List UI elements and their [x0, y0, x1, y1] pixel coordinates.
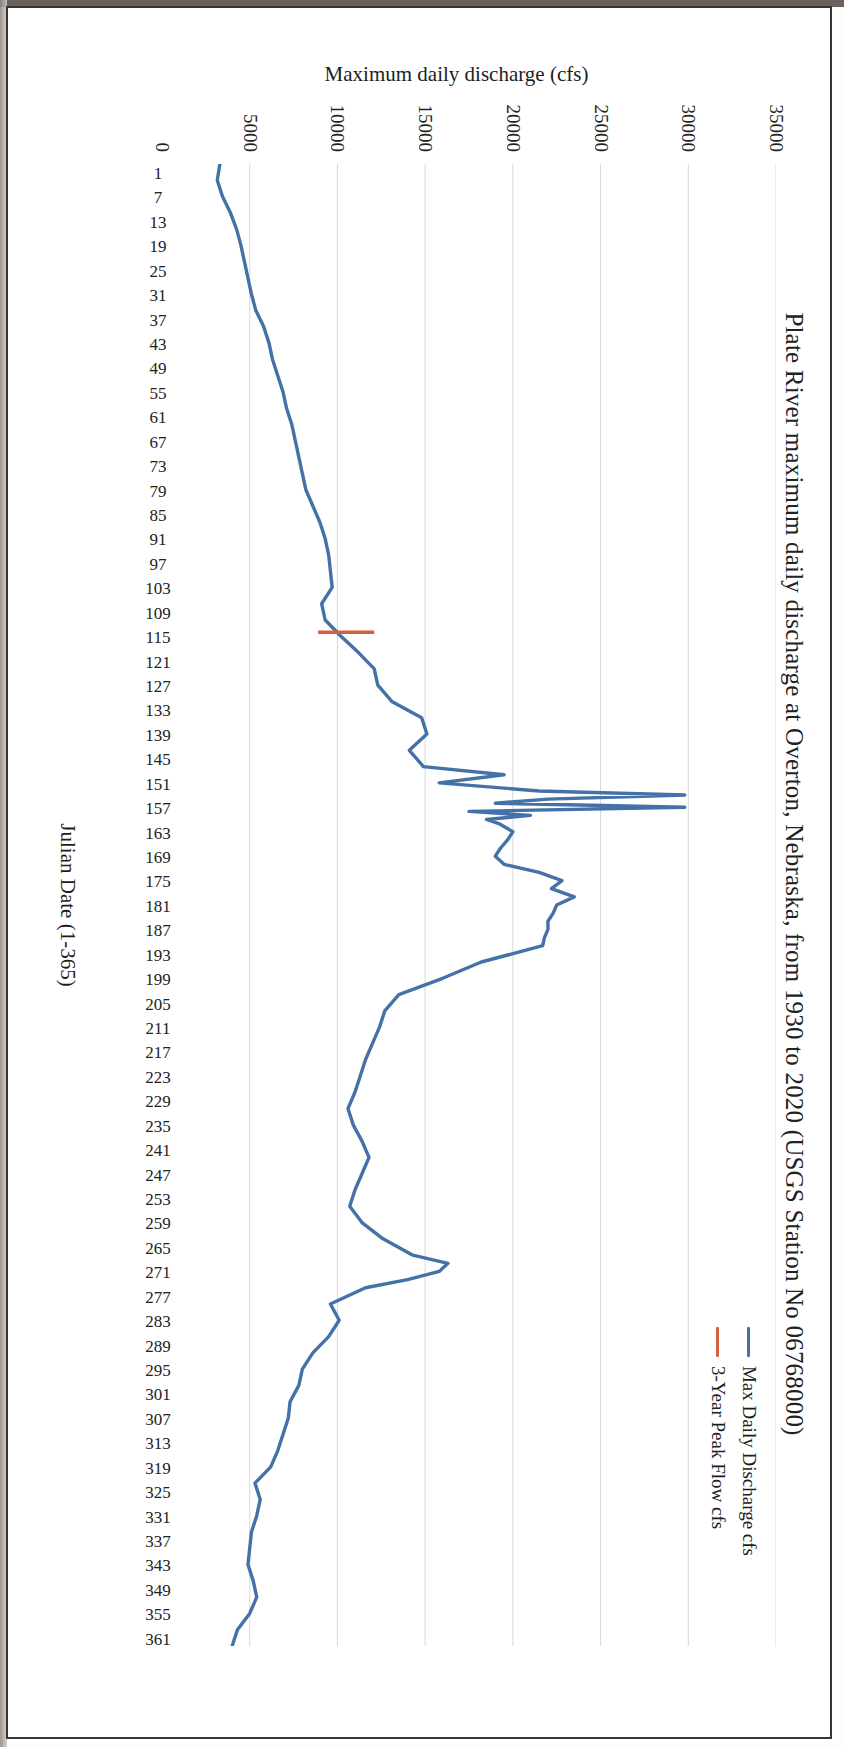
- x-axis-tick-label: 133: [145, 701, 171, 721]
- x-axis-tick-label: 37: [150, 310, 167, 330]
- x-axis-tick-label: 31: [150, 286, 167, 306]
- x-axis-tick-label: 61: [150, 408, 167, 428]
- x-axis-tick-label: 199: [145, 970, 171, 990]
- x-axis-tick-label: 55: [150, 383, 167, 403]
- x-axis-tick-label: 193: [145, 945, 171, 965]
- x-axis-tick-label: 295: [145, 1361, 171, 1381]
- chart-title: Plate River maximum daily discharge at O…: [780, 24, 808, 1724]
- x-axis-tick-label: 301: [145, 1385, 171, 1405]
- x-axis-tick-label: 217: [145, 1043, 171, 1063]
- y-axis-tick-label: 0: [151, 142, 173, 152]
- x-axis-tick-label: 253: [145, 1190, 171, 1210]
- x-axis-tick-label: 337: [145, 1532, 171, 1552]
- x-axis-tick-label: 25: [150, 261, 167, 281]
- x-axis-tick-label: 97: [150, 554, 167, 574]
- x-axis-tick-label: 289: [145, 1336, 171, 1356]
- x-axis-tick-label: 67: [150, 432, 167, 452]
- rotated-figure-wrapper: Plate River maximum daily discharge at O…: [22, 24, 822, 1724]
- x-axis-tick-label: 307: [145, 1409, 171, 1429]
- x-axis-tick-label: 49: [150, 359, 167, 379]
- x-axis-tick-label: 127: [145, 677, 171, 697]
- x-axis-tick-label: 43: [150, 335, 167, 355]
- x-axis-tick-label: 355: [145, 1605, 171, 1625]
- x-axis-tick-labels: 1713192531374349556167737985919710310911…: [98, 164, 158, 1646]
- x-axis-tick-label: 271: [145, 1263, 171, 1283]
- x-axis-tick-label: 115: [146, 628, 171, 648]
- series-line-max-daily-discharge: [217, 164, 685, 1646]
- x-axis-tick-label: 13: [150, 212, 167, 232]
- x-axis-tick-label: 229: [145, 1092, 171, 1112]
- x-axis-tick-label: 247: [145, 1165, 171, 1185]
- x-axis-tick-label: 205: [145, 994, 171, 1014]
- x-axis-tick-label: 109: [145, 603, 171, 623]
- y-axis-title: Maximum daily discharge (cfs): [150, 61, 764, 86]
- x-axis-tick-label: 325: [145, 1483, 171, 1503]
- x-axis-tick-label: 151: [145, 774, 171, 794]
- x-axis-tick-label: 235: [145, 1116, 171, 1136]
- series-layer: [217, 164, 685, 1646]
- x-axis-tick-label: 19: [150, 237, 167, 257]
- x-axis-tick-label: 241: [145, 1141, 171, 1161]
- x-axis-tick-label: 181: [145, 896, 171, 916]
- y-axis-tick-label: 10000: [326, 104, 348, 152]
- x-axis-tick-label: 319: [145, 1458, 171, 1478]
- x-axis-tick-label: 7: [154, 188, 163, 208]
- x-axis-tick-label: 163: [145, 823, 171, 843]
- y-axis-tick-label: 20000: [502, 104, 524, 152]
- x-axis-tick-label: 175: [145, 872, 171, 892]
- x-axis-tick-label: 361: [145, 1629, 171, 1649]
- x-axis-tick-label: 157: [145, 799, 171, 819]
- x-axis-tick-label: 211: [146, 1019, 171, 1039]
- x-axis-tick-label: 103: [145, 579, 171, 599]
- y-axis-tick-label: 35000: [765, 104, 787, 152]
- x-axis-tick-label: 259: [145, 1214, 171, 1234]
- x-axis-tick-label: 1: [154, 164, 163, 184]
- x-axis-tick-label: 223: [145, 1067, 171, 1087]
- x-axis-tick-label: 343: [145, 1556, 171, 1576]
- x-axis-tick-label: 283: [145, 1312, 171, 1332]
- x-axis-tick-label: 187: [145, 921, 171, 941]
- scanned-page: Plate River maximum daily discharge at O…: [0, 0, 844, 1747]
- x-axis-tick-label: 121: [145, 652, 171, 672]
- y-axis-tick-label: 30000: [677, 104, 699, 152]
- x-axis-tick-label: 313: [145, 1434, 171, 1454]
- x-axis-tick-label: 73: [150, 457, 167, 477]
- y-axis-tick-label: 25000: [590, 104, 612, 152]
- x-axis-title: Julian Date (1-365): [55, 164, 80, 1646]
- x-axis-tick-label: 169: [145, 848, 171, 868]
- chart-figure: Plate River maximum daily discharge at O…: [22, 24, 822, 1724]
- x-axis-tick-label: 145: [145, 750, 171, 770]
- x-axis-tick-label: 91: [150, 530, 167, 550]
- x-axis-tick-label: 265: [145, 1238, 171, 1258]
- y-axis-tick-label: 15000: [414, 104, 436, 152]
- plot-svg: [162, 164, 776, 1646]
- x-axis-tick-label: 349: [145, 1580, 171, 1600]
- x-axis-tick-label: 85: [150, 506, 167, 526]
- x-axis-tick-label: 79: [150, 481, 167, 501]
- plot-area: [162, 164, 776, 1646]
- x-axis-tick-label: 139: [145, 725, 171, 745]
- x-axis-tick-label: 277: [145, 1287, 171, 1307]
- y-axis-tick-label: 5000: [239, 114, 261, 152]
- x-axis-tick-label: 331: [145, 1507, 171, 1527]
- gridlines: [250, 164, 776, 1646]
